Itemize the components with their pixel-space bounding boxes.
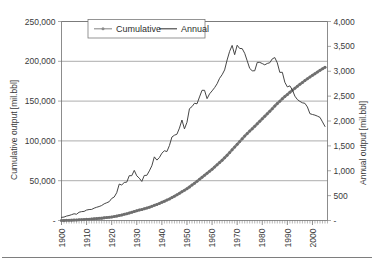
cumulative-marker: [273, 105, 276, 108]
cumulative-marker: [228, 151, 231, 154]
cumulative-marker: [308, 76, 311, 79]
cumulative-marker: [283, 95, 286, 98]
y2-tick-label: -: [334, 216, 337, 226]
cumulative-marker: [301, 81, 304, 84]
y-tick-label: 150,000: [25, 96, 56, 106]
x-tick-label: 1970: [232, 228, 242, 247]
cumulative-marker: [238, 140, 241, 143]
cumulative-marker: [135, 209, 138, 212]
cumulative-marker: [216, 163, 219, 166]
legend-label-annual: Annual: [181, 24, 209, 34]
cumulative-marker: [183, 189, 186, 192]
cumulative-marker: [203, 174, 206, 177]
y2-tick-label: 2,000: [334, 116, 356, 126]
cumulative-marker: [185, 187, 188, 190]
cumulative-marker: [303, 79, 306, 82]
legend-marker-cumulative: [102, 27, 105, 30]
cumulative-marker: [180, 190, 183, 193]
cumulative-marker: [208, 170, 211, 173]
y2-tick-label: 1,000: [334, 166, 356, 176]
cumulative-marker: [178, 192, 181, 195]
cumulative-marker: [231, 148, 234, 151]
cumulative-marker: [113, 215, 116, 218]
cumulative-marker: [271, 107, 274, 110]
cumulative-marker: [298, 83, 301, 86]
y-tick-label: 200,000: [25, 56, 56, 66]
cumulative-marker: [123, 213, 126, 216]
x-tick-label: 1980: [257, 228, 267, 247]
cumulative-marker: [316, 71, 319, 74]
y-tick-label: 250,000: [25, 17, 56, 27]
cumulative-marker: [268, 110, 271, 113]
cumulative-marker: [306, 77, 309, 80]
y2-tick-label: 2,500: [334, 91, 356, 101]
cumulative-marker: [198, 178, 201, 181]
x-tick-label: 1930: [132, 228, 142, 247]
y-tick-label: 50,000: [30, 176, 56, 186]
x-tick-label: 1960: [207, 228, 217, 247]
cumulative-marker: [190, 184, 193, 187]
cumulative-marker: [251, 127, 254, 130]
y2-tick-label: 3,500: [334, 41, 356, 51]
cumulative-marker: [201, 176, 204, 179]
cumulative-marker: [115, 215, 118, 218]
cumulative-marker: [258, 120, 261, 123]
cumulative-marker: [263, 115, 266, 118]
cumulative-marker: [261, 117, 264, 120]
legend-label-cumulative: Cumulative: [116, 24, 161, 34]
cumulative-marker: [175, 193, 178, 196]
x-tick-label: 1990: [283, 228, 293, 247]
cumulative-marker: [221, 159, 224, 162]
cumulative-marker: [193, 182, 196, 185]
cumulative-marker: [241, 137, 244, 140]
cumulative-marker: [223, 156, 226, 159]
cumulative-marker: [276, 102, 279, 105]
cumulative-marker: [288, 91, 291, 94]
cumulative-marker: [323, 66, 326, 69]
cumulative-marker: [213, 166, 216, 169]
cumulative-marker: [293, 87, 296, 90]
x-tick-label: 2000: [308, 228, 318, 247]
cumulative-marker: [278, 100, 281, 103]
cumulative-marker: [281, 97, 284, 100]
y2-tick-label: 1,500: [334, 141, 356, 151]
cumulative-marker: [253, 125, 256, 128]
cumulative-marker: [108, 216, 111, 219]
cumulative-marker: [243, 135, 246, 138]
y2-tick-label: 3,000: [334, 66, 356, 76]
cumulative-marker: [236, 143, 239, 146]
cumulative-marker: [246, 132, 249, 135]
cumulative-marker: [196, 180, 199, 183]
cumulative-marker: [321, 67, 324, 70]
cumulative-marker: [138, 209, 141, 212]
y-tick-label: 100,000: [25, 136, 56, 146]
cumulative-marker: [218, 161, 221, 164]
cumulative-marker: [206, 172, 209, 175]
cumulative-marker: [286, 93, 289, 96]
cumulative-marker: [266, 112, 269, 115]
cumulative-marker: [318, 69, 321, 72]
dual-axis-line-chart: 1900191019201930194019501960197019801990…: [0, 0, 374, 264]
x-tick-label: 1920: [107, 228, 117, 247]
y-tick-label: -: [53, 216, 56, 226]
cumulative-marker: [120, 213, 123, 216]
y2-tick-label: 500: [334, 191, 348, 201]
y2-tick-label: 4,000: [334, 17, 356, 27]
cumulative-marker: [311, 74, 314, 77]
x-tick-label: 1950: [182, 228, 192, 247]
chart-figure: 1900191019201930194019501960197019801990…: [0, 0, 374, 264]
cumulative-marker: [256, 122, 259, 125]
cumulative-marker: [233, 146, 236, 149]
x-tick-label: 1940: [157, 228, 167, 247]
x-tick-label: 1910: [82, 228, 92, 247]
cumulative-marker: [211, 168, 214, 171]
cumulative-marker: [296, 85, 299, 88]
cumulative-marker: [313, 72, 316, 75]
chart-legend: Cumulative Annual: [88, 20, 209, 39]
cumulative-marker: [118, 214, 121, 217]
left-axis-title: Cumulative output [mil.bbl]: [9, 80, 19, 180]
cumulative-marker: [110, 215, 113, 218]
cumulative-marker: [248, 130, 251, 133]
cumulative-marker: [188, 185, 191, 188]
cumulative-marker: [226, 154, 229, 157]
